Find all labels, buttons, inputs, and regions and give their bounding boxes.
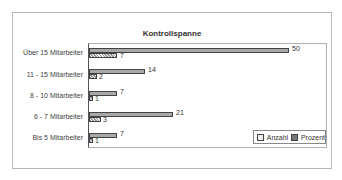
legend-swatch-icon — [257, 134, 264, 141]
value-label: 21 — [176, 109, 184, 116]
value-label: 3 — [103, 116, 107, 123]
value-label: 2 — [99, 73, 103, 80]
legend: Anzahl Prozent — [253, 130, 326, 144]
category-label: 11 - 15 Mitarbeiter — [27, 71, 83, 78]
bar-anzahl — [89, 74, 97, 79]
value-label: 7 — [120, 52, 124, 59]
value-label: 1 — [95, 137, 99, 144]
chart-title: Kontrollspanne — [13, 29, 331, 38]
legend-swatch-icon — [291, 134, 298, 141]
value-label: 14 — [148, 66, 156, 73]
value-label: 7 — [120, 88, 124, 95]
legend-label: Prozent — [301, 134, 325, 141]
bar-prozent — [89, 112, 173, 117]
bar-prozent — [89, 48, 289, 53]
bar-prozent — [89, 69, 145, 74]
value-label: 50 — [292, 45, 300, 52]
value-label: 1 — [95, 95, 99, 102]
bar-anzahl — [89, 117, 101, 122]
bar-anzahl — [89, 96, 93, 101]
bar-anzahl — [89, 53, 117, 58]
legend-label: Anzahl — [267, 134, 288, 141]
category-label: 6 - 7 Mitarbeiter — [34, 113, 83, 120]
bar-prozent — [89, 133, 117, 138]
bar-prozent — [89, 91, 117, 96]
category-label: Über 15 Mitarbeiter — [23, 49, 83, 56]
category-label: Bis 5 Mitarbeiter — [32, 134, 83, 141]
category-label: 8 - 10 Mitarbeiter — [30, 92, 83, 99]
bar-anzahl — [89, 138, 93, 143]
value-label: 7 — [120, 130, 124, 137]
